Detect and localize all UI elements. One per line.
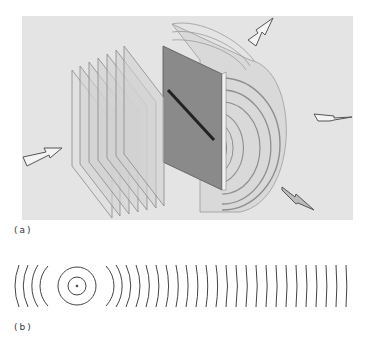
- incident-plane-waves: [72, 46, 164, 218]
- figure-b-label: (b): [14, 322, 33, 332]
- diffracted-arrow-down-icon: [282, 187, 314, 210]
- incident-arrow-icon: [23, 148, 62, 166]
- diffracted-arrow-up-icon: [248, 18, 273, 46]
- figure-a-illustration: [0, 0, 368, 353]
- figure-b-wavefronts: [15, 265, 347, 307]
- diffracted-arrow-right-icon: [314, 114, 352, 121]
- source-point: [76, 285, 78, 287]
- figure-a-label: (a): [14, 225, 33, 235]
